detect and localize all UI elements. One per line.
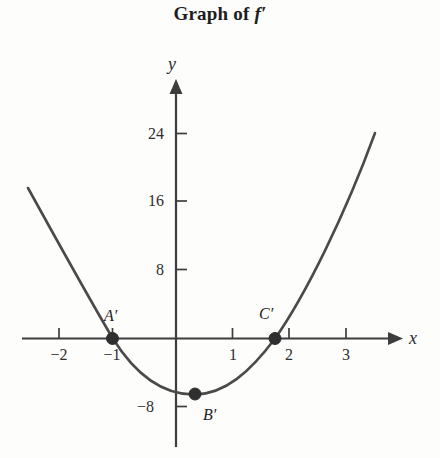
x-tick-label-neg1: −1 bbox=[97, 346, 127, 364]
x-axis-label: x bbox=[409, 328, 417, 349]
curve-f-prime bbox=[28, 133, 375, 395]
x-tick-label-neg2: −2 bbox=[44, 346, 74, 364]
x-tick-label-1: 1 bbox=[218, 346, 248, 364]
y-axis-arrowhead bbox=[170, 79, 183, 94]
point-label-c-prime: C′ bbox=[259, 305, 273, 323]
x-tick-label-2: 2 bbox=[274, 346, 304, 364]
plot-area bbox=[0, 0, 440, 458]
y-tick-label-24: 24 bbox=[118, 125, 164, 143]
point-b-prime bbox=[189, 388, 201, 400]
chart-figure: Graph of f′ 24 16 8 −8 −2 −1 1 2 3 x y bbox=[0, 0, 440, 458]
y-tick-label-8: 8 bbox=[118, 261, 164, 279]
x-axis-arrowhead bbox=[388, 332, 403, 345]
point-label-a-prime: A′ bbox=[104, 307, 117, 325]
point-label-b-prime: B′ bbox=[203, 406, 216, 424]
point-c-prime bbox=[269, 333, 281, 345]
y-axis-label: y bbox=[168, 54, 176, 75]
y-tick-label-neg8: −8 bbox=[108, 398, 154, 416]
y-tick-label-16: 16 bbox=[118, 192, 164, 210]
point-a-prime bbox=[107, 333, 119, 345]
x-tick-label-3: 3 bbox=[331, 346, 361, 364]
